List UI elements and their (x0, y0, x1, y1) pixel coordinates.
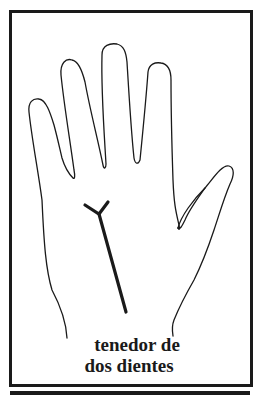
fork-line (85, 202, 126, 312)
hand-outline (29, 44, 233, 338)
caption-line-1: tenedor de (8, 334, 258, 356)
caption-line-2: dos dientes (0, 355, 258, 377)
